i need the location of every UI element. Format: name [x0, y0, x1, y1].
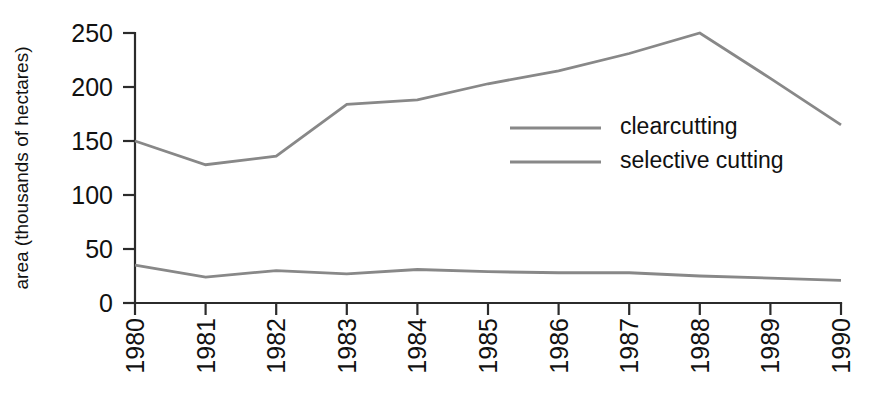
legend-label-selective-cutting: selective cutting	[620, 147, 784, 173]
x-axis-ticks: 1980198119821983198419851986198719881989…	[121, 303, 855, 374]
x-tick-label: 1983	[333, 318, 361, 374]
y-tick-label: 200	[71, 73, 113, 101]
x-tick-label: 1985	[474, 318, 502, 374]
chart-container: area (thousands of hectares) 05010015020…	[0, 0, 896, 397]
y-tick-label: 100	[71, 181, 113, 209]
x-tick-label: 1981	[192, 318, 220, 374]
x-tick-label: 1982	[262, 318, 290, 374]
y-axis-title: area (thousands of hectares)	[11, 47, 32, 290]
x-tick-label: 1986	[545, 318, 573, 374]
x-tick-label: 1980	[121, 318, 149, 374]
legend-label-clearcutting: clearcutting	[620, 113, 738, 139]
x-tick-label: 1990	[827, 318, 855, 374]
x-tick-label: 1988	[686, 318, 714, 374]
y-tick-label: 150	[71, 127, 113, 155]
y-tick-label: 50	[85, 235, 113, 263]
series-line-clearcutting	[135, 33, 841, 165]
x-tick-label: 1984	[403, 318, 431, 374]
y-tick-label: 0	[99, 289, 113, 317]
y-axis-ticks: 050100150200250	[71, 19, 135, 317]
series-line-selective-cutting	[135, 265, 841, 280]
line-chart: area (thousands of hectares) 05010015020…	[0, 0, 896, 397]
x-tick-label: 1989	[756, 318, 784, 374]
y-tick-label: 250	[71, 19, 113, 47]
chart-legend: clearcuttingselective cutting	[510, 113, 784, 173]
x-tick-label: 1987	[615, 318, 643, 374]
